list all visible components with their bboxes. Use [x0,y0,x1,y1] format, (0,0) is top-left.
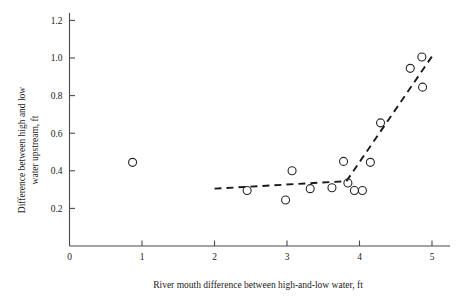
x-tick-label: 3 [285,252,290,262]
y-axis-title-line1: Difference between high and low [17,87,27,214]
scatter-chart: 0.20.40.60.81.01.2 012345 Difference bet… [0,0,464,300]
data-point [306,185,314,193]
x-tick-label: 4 [357,252,362,262]
data-point [418,53,426,61]
trend-line-rising-segment [346,54,433,181]
y-axis-title-line2: water upstream, ft [30,115,40,184]
trend-line-flat-segment [215,181,347,189]
y-tick-label: 0.2 [51,204,63,214]
y-axis-ticks: 0.20.40.60.81.01.2 [51,16,75,214]
data-point [377,119,385,127]
data-point [340,157,348,165]
x-tick-label: 1 [140,252,145,262]
trend-line-group [215,54,434,188]
x-axis-title: River mouth difference between high-and-… [153,280,363,290]
data-point [406,64,414,72]
y-tick-label: 1.0 [51,53,63,63]
x-tick-label: 5 [430,252,435,262]
axes [70,13,451,246]
data-point [419,83,427,91]
y-tick-label: 0.4 [51,166,63,176]
y-axis-title: Difference between high and low water up… [17,87,40,214]
data-point [288,167,296,175]
x-axis-ticks: 012345 [67,241,435,263]
y-tick-label: 0.6 [51,129,63,139]
data-point [366,158,374,166]
data-point [358,187,366,195]
y-tick-label: 0.8 [51,91,63,101]
data-point [282,196,290,204]
data-point [328,184,336,192]
x-tick-label: 0 [67,252,72,262]
chart-canvas: 0.20.40.60.81.01.2 012345 Difference bet… [0,0,464,300]
y-tick-label: 1.2 [51,16,63,26]
x-tick-label: 2 [212,252,217,262]
data-point [350,187,358,195]
data-point [243,187,251,195]
data-point [129,158,137,166]
